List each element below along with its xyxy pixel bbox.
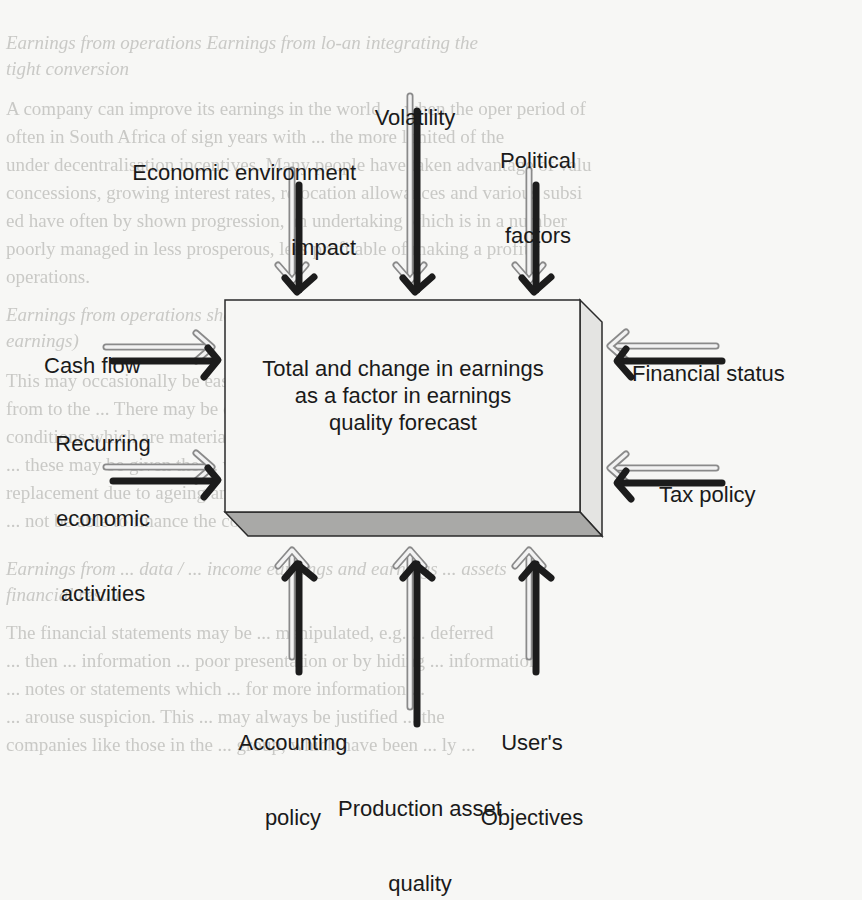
arrow-up-users-objectives (515, 550, 551, 672)
label-line: User's (462, 730, 602, 755)
label-tax-policy: Tax policy (659, 432, 756, 532)
label-line: Economic environment (100, 160, 356, 185)
label-line: Cash flow (44, 353, 141, 378)
label-line: impact (100, 235, 356, 260)
label-economic-environment-impact: Economic environment impact (100, 110, 356, 285)
box-bottom-face (225, 512, 602, 536)
arrow-up-production-asset-quality (396, 550, 432, 724)
label-line: Political (478, 148, 598, 173)
box-side-face (580, 300, 602, 536)
label-line: activities (40, 581, 166, 606)
center-box-line: as a factor in earnings (228, 382, 578, 409)
label-line: Objectives (462, 805, 602, 830)
label-users-objectives: User's Objectives (462, 680, 602, 855)
center-box-line: Total and change in earnings (228, 355, 578, 382)
label-line: economic (40, 506, 166, 531)
label-line: Recurring (40, 431, 166, 456)
label-line: Financial status (632, 361, 785, 386)
label-line: Volatility (350, 105, 480, 130)
label-line: quality (320, 871, 520, 896)
label-recurring-economic-activities: Recurring economic activities (40, 381, 166, 631)
label-financial-status: Financial status (632, 311, 785, 411)
label-volatility: Volatility (350, 55, 480, 155)
label-line: Tax policy (659, 482, 756, 507)
label-line: factors (478, 223, 598, 248)
arrow-up-accounting-policy (278, 550, 314, 672)
center-box-label: Total and change in earnings as a factor… (228, 355, 578, 436)
label-political-factors: Political factors (478, 98, 598, 273)
center-box-line: quality forecast (228, 409, 578, 436)
